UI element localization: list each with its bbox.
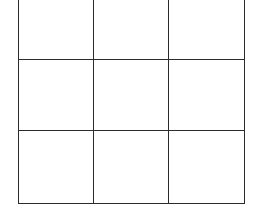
grid-cell-r2-c2[interactable] [94,60,169,132]
three-by-three-grid [18,0,245,204]
grid-cell-r2-c1[interactable] [19,60,94,132]
grid-cell-r2-c3[interactable] [169,60,244,132]
grid-cell-r1-c1[interactable] [19,0,94,60]
grid-cell-r3-c2[interactable] [94,131,169,203]
grid-cell-r1-c2[interactable] [94,0,169,60]
grid-cell-r1-c3[interactable] [169,0,244,60]
grid-cell-r3-c1[interactable] [19,131,94,203]
canvas [0,0,256,217]
grid-cell-r3-c3[interactable] [169,131,244,203]
